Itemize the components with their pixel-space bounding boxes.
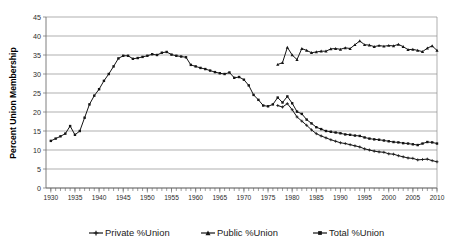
marker-square [431, 141, 433, 143]
x-tick-label: 1930 [43, 194, 58, 201]
marker-square [383, 139, 385, 141]
marker-square [373, 138, 375, 140]
marker-square [175, 55, 177, 57]
marker-square [378, 139, 380, 141]
marker-square [122, 55, 124, 57]
legend-item-public-union[interactable]: Public %Union [201, 227, 278, 238]
plot-gridlines [46, 17, 437, 188]
chart-canvas: 051015202530354045 193019351940194519501… [0, 0, 456, 248]
y-tick-label: 30 [33, 70, 41, 79]
marker-cross [397, 154, 400, 157]
marker-square [363, 136, 365, 138]
x-tick-label: 1945 [116, 194, 131, 201]
series-private-union [276, 102, 438, 163]
y-tick-label: 20 [33, 108, 41, 117]
marker-square [301, 113, 303, 115]
x-tick-label: 1965 [212, 194, 227, 201]
legend-item-total-union[interactable]: Total %Union [313, 227, 384, 238]
marker-square [117, 57, 119, 59]
x-tick-label: 1955 [164, 194, 179, 201]
y-tick-label: 45 [33, 13, 41, 22]
legend-label: Private %Union [105, 227, 170, 238]
marker-square [127, 55, 129, 57]
legend-label: Public %Union [217, 227, 278, 238]
y-tick-label: 40 [33, 32, 41, 41]
marker-square [359, 135, 361, 137]
union-membership-chart: 051015202530354045 193019351940194519501… [0, 0, 456, 248]
marker-cross [276, 104, 279, 107]
marker-square [325, 130, 327, 132]
marker-cross [402, 155, 405, 158]
marker-square [190, 64, 192, 66]
marker-square [185, 56, 187, 58]
marker-square [137, 57, 139, 59]
marker-triangle [431, 44, 434, 47]
marker-cross [431, 159, 434, 162]
marker-cross [320, 134, 323, 137]
marker-square [305, 118, 307, 120]
marker-cross [387, 152, 390, 155]
marker-square [277, 96, 279, 98]
marker-cross [392, 153, 395, 156]
marker-square [108, 73, 110, 75]
marker-cross [411, 157, 414, 160]
marker-square [397, 141, 399, 143]
chart-legend: Private %UnionPublic %UnionTotal %Union [89, 227, 384, 238]
marker-cross [416, 158, 419, 161]
marker-square [74, 134, 76, 136]
marker-square [252, 94, 254, 96]
marker-square [214, 71, 216, 73]
marker-square [204, 68, 206, 70]
y-axis-ticklabels: 051015202530354045 [33, 13, 41, 193]
marker-cross [339, 141, 342, 144]
marker-square [59, 135, 61, 137]
marker-square [412, 143, 414, 145]
y-axis-title-text: Percent Union Membership [8, 47, 18, 158]
x-tick-label: 1980 [285, 194, 300, 201]
y-tick-label: 0 [37, 184, 41, 193]
x-axis-ticklabels: 1930193519401945195019551960196519701975… [43, 194, 444, 201]
marker-triangle [300, 47, 303, 50]
marker-square [233, 77, 235, 79]
marker-square [69, 125, 71, 127]
marker-cross [358, 145, 361, 148]
marker-square [349, 134, 351, 136]
marker-square [262, 104, 264, 106]
y-tick-label: 15 [33, 127, 41, 136]
marker-square [421, 142, 423, 144]
x-axis-minor-ticks [51, 188, 437, 193]
marker-square [281, 101, 283, 103]
marker-square [194, 65, 196, 67]
marker-square [223, 73, 225, 75]
marker-square [426, 141, 428, 143]
marker-square [132, 58, 134, 60]
marker-square [98, 88, 100, 90]
marker-square [238, 76, 240, 78]
marker-triangle [358, 39, 361, 42]
legend-item-private-union[interactable]: Private %Union [89, 227, 170, 238]
marker-square [344, 133, 346, 135]
series-line [278, 41, 437, 65]
marker-square [330, 131, 332, 133]
series-line [278, 104, 437, 162]
series-layer [50, 39, 439, 163]
marker-cross [344, 142, 347, 145]
marker-cross [94, 231, 99, 236]
marker-square [257, 99, 259, 101]
marker-square [228, 71, 230, 73]
marker-triangle [286, 46, 289, 49]
marker-square [318, 231, 322, 235]
x-tick-label: 1940 [92, 194, 107, 201]
marker-square [199, 67, 201, 69]
y-tick-label: 5 [37, 165, 41, 174]
x-tick-label: 1935 [68, 194, 83, 201]
marker-square [156, 54, 158, 56]
marker-square [50, 140, 52, 142]
x-tick-label: 1960 [188, 194, 203, 201]
x-tick-label: 1975 [261, 194, 276, 201]
marker-square [88, 103, 90, 105]
marker-square [103, 80, 105, 82]
marker-square [402, 142, 404, 144]
marker-square [219, 72, 221, 74]
x-tick-label: 2010 [430, 194, 445, 201]
